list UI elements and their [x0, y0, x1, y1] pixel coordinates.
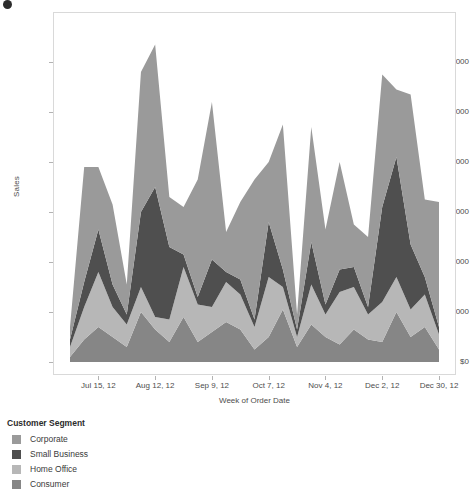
- legend-swatch-icon: [12, 450, 21, 459]
- legend-swatch-icon: [12, 465, 21, 474]
- x-tick-mark: [155, 376, 156, 380]
- legend-items: CorporateSmall BusinessHome OfficeConsum…: [4, 432, 204, 489]
- legend-item-consumer[interactable]: Consumer: [4, 477, 204, 489]
- x-tick-mark: [439, 376, 440, 380]
- x-axis-title: Week of Order Date: [53, 396, 456, 405]
- x-tick-mark: [382, 376, 383, 380]
- legend-swatch-icon: [12, 480, 21, 489]
- legend-item-label: Home Office: [30, 465, 77, 474]
- legend-item-label: Consumer: [30, 480, 69, 489]
- legend-item-label: Corporate: [30, 435, 68, 444]
- x-tick-mark: [325, 376, 326, 380]
- legend: Customer Segment CorporateSmall Business…: [4, 418, 204, 489]
- x-tick-mark: [212, 376, 213, 380]
- legend-item-home-office[interactable]: Home Office: [4, 462, 204, 477]
- legend-title: Customer Segment: [4, 418, 204, 428]
- area-chart: Sales $0$20,000$40,000$60,000$80,000$100…: [0, 0, 469, 412]
- legend-item-small-business[interactable]: Small Business: [4, 447, 204, 462]
- x-tick-label: Dec 30, 12: [399, 381, 474, 390]
- stacked-area-svg: [54, 13, 455, 374]
- x-tick-mark: [269, 376, 270, 380]
- legend-item-label: Small Business: [30, 450, 88, 459]
- x-tick-mark: [98, 376, 99, 380]
- plot-area: [53, 12, 456, 375]
- y-axis-title: Sales: [12, 157, 21, 217]
- legend-swatch-icon: [12, 435, 21, 444]
- legend-item-corporate[interactable]: Corporate: [4, 432, 204, 447]
